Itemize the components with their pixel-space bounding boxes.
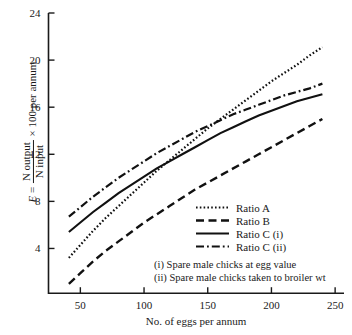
y-tick-label: 4 <box>35 242 41 254</box>
x-tick-labels: 50100150200250 <box>75 299 344 311</box>
y-axis-denominator: N input <box>34 140 46 183</box>
x-tick-label: 100 <box>136 299 153 311</box>
y-tick-marks <box>49 13 55 248</box>
curve-ratio-c-i <box>69 94 323 232</box>
x-tick-label: 200 <box>263 299 280 311</box>
y-axis-tail: × 100 per annum <box>26 62 38 137</box>
x-tick-label: 250 <box>327 299 344 311</box>
y-axis-label: E = N output N input × 100 per annum <box>21 47 45 217</box>
x-tick-marks <box>80 287 335 293</box>
note-1: (i) Spare male chicks at egg value <box>154 259 297 271</box>
curve-ratio-a <box>69 47 323 258</box>
legend-labels: Ratio ARatio BRatio C (i)Ratio C (ii) <box>236 202 286 254</box>
y-axis-symbol: E <box>26 196 38 203</box>
chart-svg: 4812162024 50100150200250 Ratio ARatio B… <box>0 0 352 335</box>
legend-label-1: Ratio A <box>236 202 270 214</box>
figure: 4812162024 50100150200250 Ratio ARatio B… <box>0 0 352 335</box>
x-axis-label: No. of eggs per annum <box>146 315 247 327</box>
y-axis-equals: = <box>26 187 38 193</box>
legend-swatches <box>196 208 229 247</box>
y-axis-fraction: N output N input <box>21 140 45 183</box>
figure-notes: (i) Spare male chicks at egg value(ii) S… <box>154 259 326 284</box>
y-axis-numerator: N output <box>21 140 34 183</box>
axes <box>48 13 344 294</box>
legend-label-4: Ratio C (ii) <box>236 241 286 254</box>
legend-label-2: Ratio B <box>236 215 270 227</box>
y-tick-label: 24 <box>30 7 42 19</box>
note-2: (ii) Spare male chicks taken to broiler … <box>154 272 326 284</box>
legend-label-3: Ratio C (i) <box>236 228 283 241</box>
curve-ratio-c-ii <box>69 84 323 217</box>
x-tick-label: 50 <box>75 299 87 311</box>
x-tick-label: 150 <box>199 299 216 311</box>
